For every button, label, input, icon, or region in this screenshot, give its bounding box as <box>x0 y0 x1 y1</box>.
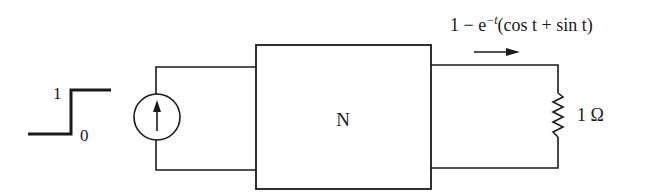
resistor-label: 1 Ω <box>577 105 604 125</box>
expr-exponent: −t <box>486 13 498 27</box>
step-high-label: 1 <box>53 84 62 103</box>
network-label: N <box>336 109 350 130</box>
resistor-icon <box>553 93 563 137</box>
left-wiring <box>156 67 256 170</box>
step-function-icon <box>28 90 111 134</box>
circuit-diagram: 1 0 N 1 Ω 1 − e−t(cos t + sin t) <box>0 0 648 195</box>
expr-rest: (cos t + sin t) <box>498 15 593 36</box>
output-current-expression: 1 − e−t(cos t + sin t) <box>450 13 593 36</box>
right-wiring <box>431 65 558 168</box>
expr-base: 1 − e <box>450 15 486 35</box>
step-low-label: 0 <box>80 126 89 145</box>
current-source-icon <box>134 94 180 140</box>
current-direction-arrow-icon <box>474 48 520 56</box>
